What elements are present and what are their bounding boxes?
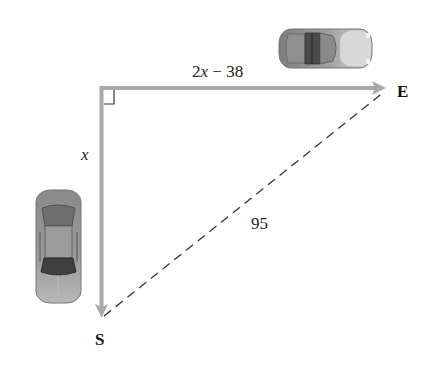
horizontal-leg-arrow (100, 81, 386, 95)
car-topview-icon (36, 190, 81, 303)
triangle-diagram: 2x − 38 x 95 E S (0, 0, 432, 367)
hypotenuse-line (104, 92, 384, 316)
car-topview-icon (279, 29, 372, 68)
right-angle-marker-icon (104, 90, 114, 104)
east-point-label: E (397, 82, 408, 101)
vertical-leg-label: x (80, 145, 89, 164)
vertical-leg-arrow (95, 86, 108, 318)
hypotenuse-label: 95 (251, 214, 268, 233)
south-point-label: S (95, 330, 104, 349)
horizontal-leg-label: 2x − 38 (192, 62, 243, 81)
